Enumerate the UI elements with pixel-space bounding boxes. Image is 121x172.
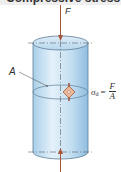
area-leader-dot [46, 85, 48, 87]
area-label: A [9, 66, 16, 77]
stress-formula: σd = F A [91, 82, 116, 101]
fraction: F A [109, 82, 117, 101]
fraction-denominator: A [110, 92, 116, 101]
sigma-subscript: d [95, 91, 98, 97]
equals-sign: = [100, 87, 105, 97]
top-force-arrow [58, 5, 63, 41]
force-label: F [65, 6, 71, 16]
